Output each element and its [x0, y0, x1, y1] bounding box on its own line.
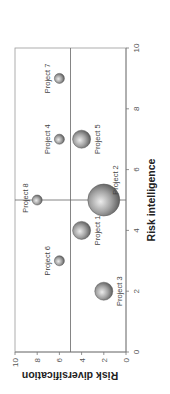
- x-tick-label: 4: [132, 228, 141, 233]
- x-tick-label: 0: [132, 349, 141, 354]
- y-tick-label: 8: [33, 357, 42, 362]
- x-tick-label: 6: [132, 167, 141, 172]
- bubble-label: Project 4: [43, 124, 52, 154]
- bubble-marker: [32, 195, 42, 205]
- x-tick-label: 10: [132, 43, 141, 52]
- y-tick-label: 4: [78, 357, 87, 362]
- bubble-label: Project 2: [111, 165, 120, 195]
- bubble-chart: 02468100246810 Project 1Project 2Project…: [0, 0, 170, 394]
- bubble-marker: [73, 221, 91, 239]
- y-tick-label: 10: [11, 357, 20, 366]
- bubble-marker: [73, 130, 91, 148]
- bubble-marker: [54, 256, 64, 266]
- y-tick-label: 0: [122, 357, 131, 362]
- bubble-label: Project 8: [21, 183, 30, 213]
- x-tick-label: 8: [132, 106, 141, 111]
- bubble-marker: [54, 73, 64, 83]
- y-axis-title: Risk diversification: [22, 370, 118, 382]
- bubble-label: Project 1: [93, 216, 102, 246]
- y-tick-label: 6: [55, 357, 64, 362]
- bubble-project-7: Project 7: [43, 64, 64, 94]
- chart-svg: 02468100246810 Project 1Project 2Project…: [0, 0, 170, 394]
- bubble-project-4: Project 4: [43, 124, 64, 154]
- bubble-label: Project 5: [93, 124, 102, 154]
- bubble-label: Project 6: [43, 246, 52, 276]
- bubbles: Project 1Project 2Project 3Project 4Proj…: [21, 64, 124, 306]
- bubble-label: Project 3: [115, 276, 124, 306]
- bubble-project-3: Project 3: [95, 276, 124, 306]
- axes: 02468100246810: [11, 43, 141, 367]
- bubble-marker: [54, 134, 64, 144]
- y-tick-label: 2: [100, 357, 109, 362]
- x-tick-label: 2: [132, 288, 141, 293]
- bubble-marker: [95, 282, 113, 300]
- bubble-label: Project 7: [43, 64, 52, 94]
- bubble-project-2: Project 2: [88, 165, 120, 216]
- bubble-project-5: Project 5: [73, 124, 102, 154]
- bubble-project-8: Project 8: [21, 183, 42, 213]
- bubble-project-6: Project 6: [43, 246, 64, 276]
- x-axis-title: Risk intelligence: [145, 158, 157, 241]
- bubble-project-1: Project 1: [73, 216, 102, 246]
